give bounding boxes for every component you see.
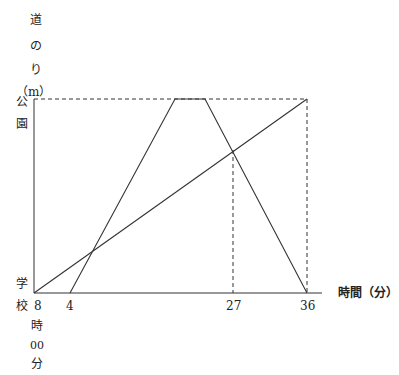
- x-origin-label-1: 8: [34, 300, 42, 312]
- park-label-1: 公: [16, 96, 28, 108]
- x-tick-36: 36: [300, 300, 315, 312]
- y-label-1: 道: [30, 14, 42, 26]
- x-origin-label-3: 00: [30, 340, 44, 352]
- distance-time-graph: [0, 0, 399, 375]
- x-tick-4: 4: [66, 300, 74, 312]
- x-origin-label-2: 時: [31, 320, 43, 332]
- y-label-3: り: [30, 64, 42, 76]
- x-origin-label-4: 分: [31, 358, 43, 370]
- trapezoid-path: [70, 99, 307, 293]
- school-label-1: 学: [16, 278, 28, 290]
- school-label-2: 校: [16, 300, 28, 312]
- park-label-2: 園: [16, 118, 28, 130]
- x-axis-label: 時間（分）: [338, 287, 398, 299]
- straight-path: [34, 99, 307, 293]
- y-label-2: の: [30, 40, 42, 52]
- x-tick-27: 27: [226, 300, 241, 312]
